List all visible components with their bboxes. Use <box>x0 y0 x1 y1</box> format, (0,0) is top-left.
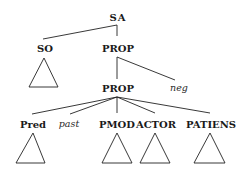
subtree-triangle-actor <box>140 133 170 163</box>
edge-prop-actor <box>117 97 155 113</box>
subtree-triangle-so <box>29 58 58 87</box>
subtree-triangle-patiens <box>194 133 225 163</box>
edge-sa-so <box>43 25 117 39</box>
subtree-triangle-pmod <box>102 133 132 163</box>
feature-neg: neg <box>170 82 188 93</box>
node-prop-mid: PROP <box>102 83 135 94</box>
edge-prop-pred <box>32 97 117 114</box>
node-sa: SA <box>110 12 127 23</box>
feature-past: past <box>59 118 80 129</box>
node-pred: Pred <box>20 119 46 130</box>
edge-prop-patiens <box>117 97 210 113</box>
node-so: SO <box>37 43 53 54</box>
node-patiens: PATIENS <box>186 119 236 130</box>
node-prop-top: PROP <box>102 43 135 54</box>
syntax-tree-diagram: SA SO PROP PROP neg Pred past PMOD ACTOR… <box>0 0 247 175</box>
node-pmod: PMOD <box>99 119 135 130</box>
edge-prop-neg <box>117 57 175 80</box>
node-actor: ACTOR <box>135 119 177 130</box>
edge-prop-past <box>70 97 117 114</box>
subtree-triangle-pred <box>16 133 45 163</box>
